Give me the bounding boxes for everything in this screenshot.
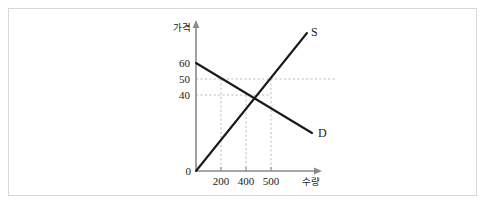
x-tick-label-400: 400 xyxy=(238,175,255,187)
y-axis-arrow-icon xyxy=(193,20,200,28)
y-axis-name-label: 가격 xyxy=(173,22,191,33)
supply-demand-chart: 60 50 40 0 200 400 500 가격 수량 S D xyxy=(0,0,487,206)
x-axis-arrow-icon xyxy=(314,168,322,175)
screenshot-root: 60 50 40 0 200 400 500 가격 수량 S D xyxy=(0,0,487,206)
x-tick-label-200: 200 xyxy=(213,175,230,187)
supply-curve xyxy=(196,33,307,171)
x-tick-label-500: 500 xyxy=(263,175,280,187)
y-tick-label-50: 50 xyxy=(179,73,191,85)
x-axis-name-label: 수량 xyxy=(302,176,320,187)
origin-label: 0 xyxy=(186,165,192,177)
demand-curve-label: D xyxy=(318,126,327,140)
supply-curve-label: S xyxy=(311,25,318,39)
y-tick-label-40: 40 xyxy=(179,89,191,101)
y-tick-label-60: 60 xyxy=(179,57,191,69)
